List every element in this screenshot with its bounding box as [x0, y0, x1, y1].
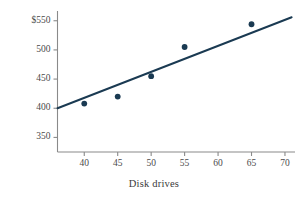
y-tick-label: 500: [36, 45, 50, 55]
axes-group: [54, 11, 296, 156]
data-point-marker: [182, 44, 188, 50]
x-tick-label: 40: [80, 159, 90, 169]
data-point-marker: [81, 101, 87, 107]
plot-canvas: [0, 0, 308, 201]
series-group: [58, 17, 292, 108]
plot-area: [0, 0, 308, 201]
y-tick-label: 400: [36, 104, 50, 114]
y-tick-label: 450: [36, 74, 50, 84]
data-point-marker: [148, 73, 154, 79]
x-tick-label: 45: [113, 159, 123, 169]
x-tick-label: 55: [180, 159, 190, 169]
y-tick-label: 350: [36, 133, 50, 143]
regression-line: [58, 17, 292, 108]
x-tick-label: 65: [247, 159, 257, 169]
x-tick-label: 70: [280, 159, 290, 169]
x-axis-title: Disk drives: [0, 178, 308, 189]
x-tick-label: 60: [213, 159, 223, 169]
data-point-marker: [115, 94, 121, 100]
scatter-chart-figure: 350400450500$55040455055606570 Disk driv…: [0, 0, 308, 201]
y-tick-label: $550: [32, 16, 51, 26]
data-point-marker: [249, 21, 255, 27]
x-tick-label: 50: [146, 159, 156, 169]
